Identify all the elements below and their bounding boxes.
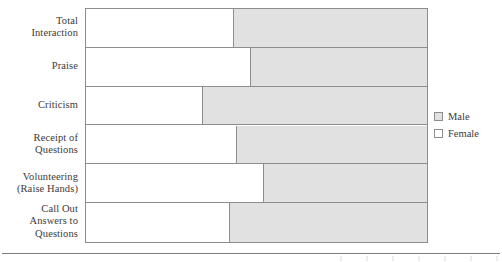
- legend-swatch-female-icon: [434, 129, 443, 138]
- page-divider-rule: [2, 253, 500, 254]
- stacked-bar-chart-figure: Total Interaction Praise Criticism Recei…: [0, 0, 502, 262]
- bar-segment-male: [229, 203, 427, 242]
- bar-segment-male: [202, 87, 427, 125]
- bar-row: [86, 203, 427, 242]
- cropped-caption-text-fragment: [330, 256, 500, 261]
- legend-swatch-male-icon: [434, 112, 443, 121]
- bar-row: [86, 87, 427, 126]
- bar-segment-male: [263, 164, 427, 202]
- bar-row: [86, 48, 427, 87]
- bar-row: [86, 9, 427, 48]
- category-label-volunteering: Volunteering (Raise Hands): [0, 171, 78, 195]
- category-label-praise: Praise: [0, 60, 78, 72]
- legend-item-female: Female: [434, 126, 500, 141]
- category-axis-labels: Total Interaction Praise Criticism Recei…: [0, 8, 78, 243]
- legend-label-male: Male: [448, 111, 470, 122]
- bar-segment-female: [86, 48, 250, 86]
- legend-item-male: Male: [434, 109, 500, 124]
- bar-segment-female: [86, 126, 236, 164]
- bar-row: [86, 164, 427, 203]
- bar-segment-male: [233, 9, 427, 47]
- bar-segment-male: [250, 48, 427, 86]
- category-label-total-interaction: Total Interaction: [0, 15, 78, 39]
- plot-area: [85, 8, 428, 243]
- category-label-criticism: Criticism: [0, 99, 78, 111]
- category-label-receipt-of-questions: Receipt of Questions: [0, 132, 78, 156]
- bar-segment-female: [86, 87, 202, 125]
- bar-segment-male: [236, 126, 427, 164]
- category-label-call-out-answers: Call Out Answers to Questions: [0, 203, 78, 240]
- legend-label-female: Female: [448, 128, 479, 139]
- bar-segment-female: [86, 203, 229, 242]
- bar-row: [86, 126, 427, 165]
- chart-legend: Male Female: [434, 109, 500, 143]
- bar-segment-female: [86, 9, 233, 47]
- bar-segment-female: [86, 164, 263, 202]
